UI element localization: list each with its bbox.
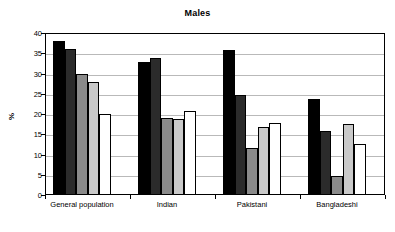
x-tick-mark (45, 195, 46, 199)
x-axis-label: Pakistani (237, 200, 267, 209)
x-tick-mark (300, 195, 301, 199)
x-axis-label: Bangladeshi (316, 200, 357, 209)
bar-group (45, 33, 130, 195)
bar (65, 49, 77, 195)
y-tick-mark (41, 155, 45, 156)
bar (354, 144, 366, 195)
bar (138, 62, 150, 195)
x-tick-mark (130, 195, 131, 199)
bar (53, 41, 65, 195)
bar-group (215, 33, 300, 195)
bar-group (130, 33, 215, 195)
bar (331, 176, 343, 195)
bar (173, 119, 185, 195)
bar (76, 74, 88, 195)
y-tick-mark (41, 114, 45, 115)
y-tick-label: 15 (16, 130, 42, 139)
x-tick-mark (385, 195, 386, 199)
y-tick-mark (41, 175, 45, 176)
y-tick-mark (41, 94, 45, 95)
bar (161, 118, 173, 195)
y-tick-mark (41, 74, 45, 75)
bar (308, 99, 320, 195)
y-tick-label: 0 (16, 191, 42, 200)
bar-chart: Males % 0510152025303540 General populat… (0, 0, 395, 232)
y-axis-tick-labels: 0510152025303540 (14, 33, 42, 195)
bar (99, 114, 111, 195)
bar (88, 82, 100, 195)
x-axis-category-labels: General populationIndianPakistaniBanglad… (45, 200, 385, 214)
y-tick-label: 40 (16, 29, 42, 38)
y-tick-mark (41, 134, 45, 135)
bar (246, 148, 258, 195)
bar (269, 123, 281, 195)
bar (184, 111, 196, 195)
bar (223, 50, 235, 195)
y-tick-label: 30 (16, 69, 42, 78)
bar-group (300, 33, 385, 195)
bar (320, 131, 332, 195)
bar (150, 58, 162, 195)
y-tick-label: 10 (16, 150, 42, 159)
x-tick-mark (215, 195, 216, 199)
y-tick-label: 35 (16, 49, 42, 58)
y-tick-mark (41, 33, 45, 34)
y-tick-label: 5 (16, 170, 42, 179)
x-axis-label: General population (50, 200, 113, 209)
y-tick-mark (41, 53, 45, 54)
x-axis-label: Indian (157, 200, 177, 209)
bar (258, 127, 270, 195)
bars-layer (45, 33, 385, 195)
bar (235, 95, 247, 195)
chart-title: Males (0, 8, 395, 18)
bar (343, 124, 355, 195)
y-tick-label: 20 (16, 110, 42, 119)
y-tick-label: 25 (16, 89, 42, 98)
